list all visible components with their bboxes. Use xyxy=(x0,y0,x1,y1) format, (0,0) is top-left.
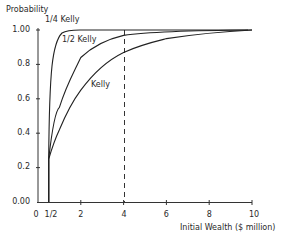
x-tick-2: 2 xyxy=(78,211,83,219)
x-tick-6: 6 xyxy=(164,211,169,219)
y-tick-0.2: 0.2 xyxy=(0,163,30,171)
y-tick-0.8: 0.8 xyxy=(0,60,30,68)
y-tick-0.6: 0.6 xyxy=(0,95,30,103)
y-axis-label: Probability xyxy=(6,6,48,14)
y-tick-1.00: 1.00 xyxy=(0,26,30,34)
x-tick-10: 10 xyxy=(249,211,259,219)
plot-area xyxy=(0,0,283,238)
x-tick-1-2: 1/2 xyxy=(45,211,58,219)
y-tick-0.4: 0.4 xyxy=(0,129,30,137)
label-kelly: Kelly xyxy=(91,81,110,89)
curve-half-kelly xyxy=(49,30,252,202)
x-tick-4: 4 xyxy=(121,211,126,219)
y-tick-0.00: 0.00 xyxy=(0,198,30,206)
label-quarter-kelly: 1/4 Kelly xyxy=(45,16,79,24)
curve-kelly xyxy=(49,30,252,202)
x-axis-label: Initial Wealth ($ million) xyxy=(180,224,275,232)
curve-quarter-kelly xyxy=(49,30,248,202)
x-tick-8: 8 xyxy=(207,211,212,219)
x-tick-0: 0 xyxy=(33,211,38,219)
label-half-kelly: 1/2 Kelly xyxy=(62,36,96,44)
